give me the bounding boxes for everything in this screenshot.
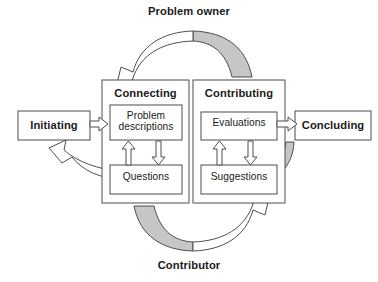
questions-box xyxy=(110,165,182,194)
diagram-canvas xyxy=(0,0,378,282)
evaluations-box xyxy=(201,112,277,140)
problem-descriptions-box xyxy=(110,105,182,140)
top-arc-gray-segment xyxy=(193,31,252,77)
suggestions-box xyxy=(201,165,277,194)
process-cycle-diagram: Problem owner Contributor Initiating Con… xyxy=(0,0,378,282)
initiating-box xyxy=(18,111,90,140)
bottom-arc-gray-segment xyxy=(134,206,193,251)
concluding-box xyxy=(295,111,371,140)
